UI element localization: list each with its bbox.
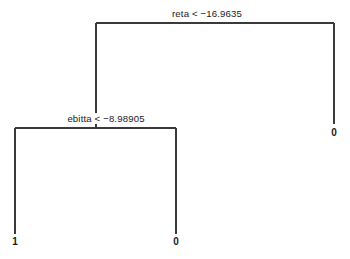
- leaf-label-left: 1: [12, 236, 18, 247]
- leaf-label-right: 0: [331, 127, 337, 138]
- leaf-label-middle: 0: [173, 236, 179, 247]
- decision-tree-figure: reta < −16.9635 ebitta < −8.98905 1 0 0: [0, 0, 350, 259]
- ebitta-split-label: ebitta < −8.98905: [66, 113, 145, 124]
- tree-branch-lines: [0, 0, 350, 259]
- root-split-label: reta < −16.9635: [171, 8, 243, 19]
